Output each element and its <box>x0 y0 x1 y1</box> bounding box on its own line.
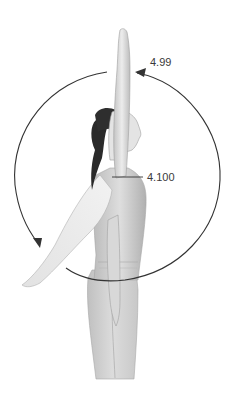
figure-illustration <box>0 0 234 411</box>
arrowhead-top-icon <box>135 68 146 77</box>
arm-raised <box>114 29 130 178</box>
arrowhead-left-icon <box>33 238 42 248</box>
label-4-100: 4.100 <box>147 171 175 183</box>
label-4-99: 4.99 <box>150 56 171 68</box>
range-of-motion-diagram: 4.99 4.100 <box>0 0 234 411</box>
